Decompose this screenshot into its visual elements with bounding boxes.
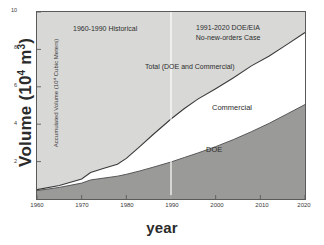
y-tick-label-4: 4 bbox=[3, 121, 17, 127]
y-axis-title-text: Volume (10 bbox=[16, 75, 35, 166]
y-tick-label-10: 10 bbox=[3, 8, 17, 14]
y-tick-label-2: 2 bbox=[3, 159, 17, 165]
y-axis-title-exponent: 4 bbox=[16, 70, 27, 76]
y-tick-marks bbox=[37, 12, 41, 162]
x-tick-label-1990: 1990 bbox=[157, 202, 187, 208]
x-tick-label-2000: 2000 bbox=[202, 202, 232, 208]
x-tick-label-1970: 1970 bbox=[67, 202, 97, 208]
x-tick-label-1960: 1960 bbox=[22, 202, 52, 208]
y-axis-title-close: ) bbox=[16, 38, 35, 44]
y-axis-inner-caption: Accumulated Volume (10⁴ Cubic Meters) bbox=[53, 18, 59, 168]
annotation-historical-period: 1960-1990 Historical bbox=[73, 25, 137, 32]
annotation-forecast-line2: No-new-orders Case bbox=[196, 34, 261, 41]
y-tick-label-8: 8 bbox=[3, 45, 17, 51]
annotation-total-curve: Total (DOE and Commercial) bbox=[145, 63, 234, 70]
y-axis-title-exponent-2: 3 bbox=[16, 44, 27, 50]
annotation-commercial-band: Commercial bbox=[212, 103, 252, 112]
annotation-doe-band: DOE bbox=[206, 145, 222, 154]
annotation-forecast-line1: 1991-2020 DOE/EIA bbox=[196, 24, 260, 31]
plot-area: Accumulated Volume (10⁴ Cubic Meters) 19… bbox=[36, 11, 306, 200]
y-axis-title-unit: m bbox=[16, 49, 35, 69]
y-tick-label-6: 6 bbox=[3, 83, 17, 89]
chart-figure: Volume (104 m3) year 10 8 6 4 2 1960 197… bbox=[0, 0, 324, 245]
x-tick-label-2020: 2020 bbox=[289, 202, 319, 208]
x-axis-title: year bbox=[0, 219, 324, 236]
y-axis-title: Volume (104 m3) bbox=[16, 27, 37, 177]
annotation-forecast-period: 1991-2020 DOE/EIA No-new-orders Case bbox=[176, 23, 280, 43]
x-tick-label-1980: 1980 bbox=[112, 202, 142, 208]
x-tick-label-2010: 2010 bbox=[247, 202, 277, 208]
